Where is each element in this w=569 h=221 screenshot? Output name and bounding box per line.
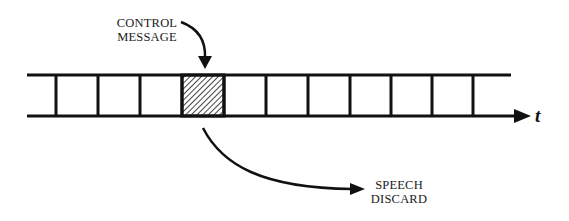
speech-discard-arrowhead-icon bbox=[350, 183, 365, 195]
control-message-label: CONTROL MESSAGE bbox=[110, 16, 184, 44]
control-message-line1: CONTROL bbox=[110, 16, 184, 30]
control-message-arrowhead-icon bbox=[198, 56, 212, 69]
time-axis-label: t bbox=[535, 105, 540, 127]
speech-discard-arrow bbox=[203, 128, 352, 189]
control-message-line2: MESSAGE bbox=[110, 30, 184, 44]
control-message-arrow bbox=[181, 22, 205, 58]
slot-dividers bbox=[56, 75, 473, 116]
speech-discard-line2: DISCARD bbox=[366, 192, 432, 206]
time-axis-arrowhead-icon bbox=[514, 109, 531, 123]
speech-discard-label: SPEECH DISCARD bbox=[366, 178, 432, 206]
speech-discard-line1: SPEECH bbox=[366, 178, 432, 192]
control-message-slot bbox=[182, 75, 224, 116]
diagram-canvas bbox=[0, 0, 569, 221]
